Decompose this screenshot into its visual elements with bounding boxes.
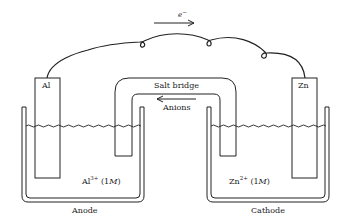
left-solution-surface xyxy=(26,125,141,127)
right-conc-close: ) xyxy=(267,177,270,186)
cathode-label: Cathode xyxy=(251,207,285,215)
left-ion-charge: 3+ xyxy=(90,175,98,181)
electron-label: e− xyxy=(178,10,187,19)
right-beaker xyxy=(207,107,329,202)
electrode-right-label: Zn xyxy=(298,82,309,90)
electrode-left-label: Al xyxy=(42,82,50,90)
anode-label: Anode xyxy=(72,207,98,215)
right-solution-label: Zn2+ (1M) xyxy=(229,176,270,186)
salt-bridge-label: Salt bridge xyxy=(154,82,199,90)
electron-flow-arrow xyxy=(154,20,194,26)
electron-charge: − xyxy=(182,9,187,15)
right-conc-unit: M xyxy=(259,177,267,186)
left-conc-open: (1 xyxy=(101,177,109,186)
right-solution-surface xyxy=(211,125,326,127)
left-beaker xyxy=(22,107,144,202)
right-conc-open: (1 xyxy=(250,177,258,186)
aluminum-electrode xyxy=(35,78,60,178)
zinc-electrode xyxy=(292,78,317,178)
anion-flow-arrow xyxy=(157,96,196,102)
anions-label: Anions xyxy=(163,104,191,112)
left-conc-close: ) xyxy=(117,177,120,186)
right-ion-charge: 2+ xyxy=(240,175,248,181)
right-ion: Zn xyxy=(229,177,240,186)
connecting-wire xyxy=(47,34,305,78)
electrochemical-cell-diagram: e− Al Zn Salt bridge Anions Al3+ (1M) Zn… xyxy=(0,0,342,222)
left-solution-label: Al3+ (1M) xyxy=(82,176,121,186)
